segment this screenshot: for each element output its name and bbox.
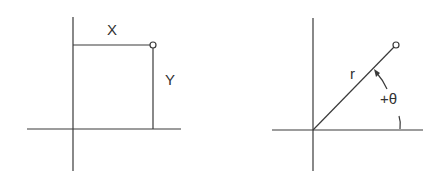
polar-point-marker bbox=[393, 42, 399, 48]
polar-diagram: r +θ bbox=[272, 18, 423, 171]
angle-label: +θ bbox=[380, 90, 397, 107]
radius-line bbox=[313, 47, 394, 130]
x-label: X bbox=[107, 21, 117, 38]
angle-arc-lower bbox=[399, 116, 400, 129]
cartesian-point-marker bbox=[150, 42, 156, 48]
radius-label: r bbox=[350, 65, 355, 82]
coordinate-systems-diagram: X Y r +θ bbox=[0, 0, 443, 180]
cartesian-diagram: X Y bbox=[27, 17, 181, 171]
y-label: Y bbox=[165, 71, 175, 88]
